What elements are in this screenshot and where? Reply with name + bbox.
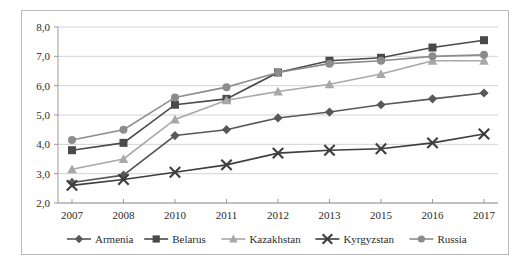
circle-marker <box>120 126 128 134</box>
y-tick-label: 8,0 <box>36 21 50 33</box>
circle-marker <box>429 52 437 60</box>
data-point-diamond <box>222 125 231 134</box>
y-tick-label: 4,0 <box>36 138 50 150</box>
legend: ArmeniaBelarusKazakhstanKyrgyzstanRussia <box>67 233 467 245</box>
circle-marker <box>418 235 425 242</box>
data-point-square <box>153 235 160 242</box>
x-tick-label: 2016 <box>422 209 445 221</box>
diamond-marker <box>376 100 385 109</box>
x-tick-label: 2010 <box>164 209 187 221</box>
diamond-marker <box>75 235 83 243</box>
x-tick-label: 2012 <box>267 209 289 221</box>
line-chart: 2,03,04,05,06,07,08,02007200820102011201… <box>22 11 510 256</box>
series-russia <box>68 51 488 144</box>
x-tick-label: 2008 <box>113 209 136 221</box>
series-line <box>72 134 484 185</box>
chart-frame: 2,03,04,05,06,07,08,02007200820102011201… <box>21 10 509 255</box>
y-tick-label: 6,0 <box>36 80 50 92</box>
data-point-circle <box>326 60 334 68</box>
diamond-marker <box>479 88 488 97</box>
circle-marker <box>274 68 282 76</box>
data-point-circle <box>120 126 128 134</box>
legend-item-belarus[interactable]: Belarus <box>144 233 206 245</box>
circle-marker <box>68 136 76 144</box>
data-point-circle <box>274 68 282 76</box>
data-point-square <box>429 44 437 52</box>
legend-item-russia[interactable]: Russia <box>409 233 466 245</box>
square-marker <box>120 139 128 147</box>
data-point-circle <box>171 93 179 101</box>
data-point-diamond <box>428 94 437 103</box>
circle-marker <box>377 57 385 65</box>
data-point-square <box>171 101 179 109</box>
data-point-circle <box>429 52 437 60</box>
circle-marker <box>326 60 334 68</box>
chart-canvas: 2,03,04,05,06,07,08,02007200820102011201… <box>22 11 510 256</box>
data-point-circle <box>68 136 76 144</box>
x-tick-label: 2013 <box>319 209 342 221</box>
legend-item-kazakhstan[interactable]: Kazakhstan <box>221 233 301 245</box>
series-line <box>72 93 484 182</box>
legend-label: Kazakhstan <box>249 233 301 245</box>
y-tick-label: 7,0 <box>36 50 50 62</box>
diamond-marker <box>428 94 437 103</box>
x-tick-label: 2015 <box>370 209 393 221</box>
square-marker <box>68 146 76 154</box>
x-tick-label: 2017 <box>473 209 496 221</box>
data-point-circle <box>377 57 385 65</box>
y-tick-label: 3,0 <box>36 168 50 180</box>
circle-marker <box>171 93 179 101</box>
y-tick-label: 2,0 <box>36 197 50 209</box>
legend-label: Armenia <box>95 233 134 245</box>
legend-item-armenia[interactable]: Armenia <box>67 233 134 245</box>
x-tick-label: 2007 <box>61 209 84 221</box>
data-point-circle <box>418 235 425 242</box>
data-point-square <box>68 146 76 154</box>
data-point-circle <box>223 83 231 91</box>
x-tick-label: 2011 <box>216 209 238 221</box>
legend-label: Belarus <box>172 233 206 245</box>
diamond-marker <box>222 125 231 134</box>
square-marker <box>171 101 179 109</box>
circle-marker <box>223 83 231 91</box>
x-axis-ticks: 200720082010201120122013201520162017 <box>61 199 496 221</box>
data-point-circle <box>480 51 488 59</box>
data-point-diamond <box>376 100 385 109</box>
legend-item-kyrgyzstan[interactable]: Kyrgyzstan <box>315 233 394 245</box>
legend-label: Russia <box>437 233 466 245</box>
data-point-square <box>480 36 488 44</box>
legend-label: Kyrgyzstan <box>343 233 394 245</box>
data-point-diamond <box>75 235 83 243</box>
y-tick-label: 5,0 <box>36 109 50 121</box>
data-point-square <box>120 139 128 147</box>
data-point-diamond <box>479 88 488 97</box>
series-line <box>72 55 484 140</box>
square-marker <box>480 36 488 44</box>
square-marker <box>153 235 160 242</box>
square-marker <box>429 44 437 52</box>
circle-marker <box>480 51 488 59</box>
